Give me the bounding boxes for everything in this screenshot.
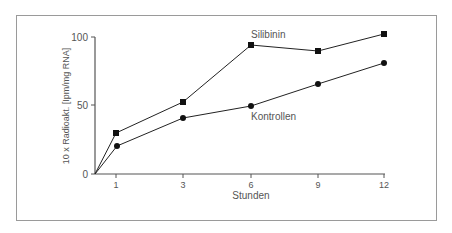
circle-marker <box>248 103 254 109</box>
x-tick-label-3: 3 <box>180 180 185 190</box>
series-kontrollen-line <box>95 63 384 174</box>
square-marker <box>180 99 186 105</box>
circle-marker <box>180 115 186 121</box>
series-label-silibinin: Silibinin <box>251 29 285 40</box>
series-silibinin-markers <box>113 31 387 136</box>
y-tick-label-0: 0 <box>82 169 88 180</box>
square-marker <box>381 31 387 37</box>
square-marker <box>113 130 119 136</box>
series-label-kontrollen: Kontrollen <box>251 111 296 122</box>
square-marker <box>315 48 321 54</box>
y-tick-label-50: 50 <box>77 100 89 111</box>
x-tick-label-1: 1 <box>113 180 118 190</box>
circle-marker <box>114 143 120 149</box>
circle-marker <box>381 60 387 66</box>
circle-marker <box>315 81 321 87</box>
x-tick-label-12: 12 <box>379 180 389 190</box>
x-tick-label-9: 9 <box>315 180 320 190</box>
line-chart: 100 50 0 1 3 6 9 12 Stunden 10 x Radioak… <box>0 0 452 233</box>
x-axis-label: Stunden <box>232 190 269 201</box>
y-tick-label-100: 100 <box>71 32 88 43</box>
y-axis-label: 10 x Radioakt. [Ipm/mg RNA] <box>61 48 71 165</box>
x-tick-label-6: 6 <box>248 180 253 190</box>
series-kontrollen-markers <box>114 60 387 149</box>
square-marker <box>248 42 254 48</box>
series-silibinin-line <box>95 34 384 174</box>
